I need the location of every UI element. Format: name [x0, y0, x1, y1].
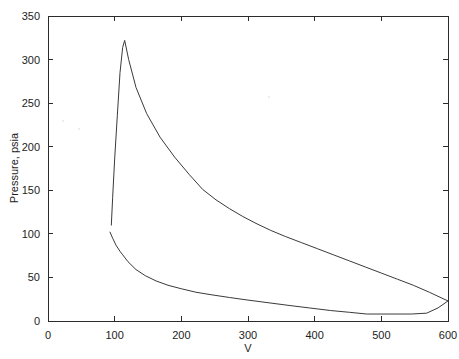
- y-tick-label: 300: [22, 54, 40, 66]
- y-tick-label: 200: [22, 141, 40, 153]
- y-tick-label: 100: [22, 228, 40, 240]
- x-tick-label: 500: [372, 329, 390, 341]
- y-axis-label: Pressure, psia: [8, 132, 20, 203]
- data-curves: [110, 40, 448, 314]
- x-axis-label: V: [244, 342, 252, 354]
- y-axis-tick-labels: 050100150200250300350: [22, 10, 40, 327]
- x-tick-label: 300: [239, 329, 257, 341]
- y-tick-label: 350: [22, 10, 40, 22]
- pv-diagram-figure: 050100150200250300350 010020030040050060…: [0, 0, 459, 359]
- scan-speck: [268, 96, 270, 98]
- y-tick-label: 0: [34, 315, 40, 327]
- y-tick-label: 50: [28, 271, 40, 283]
- curve-compression-stroke: [110, 232, 448, 314]
- scan-speck: [78, 128, 80, 130]
- x-tick-label: 200: [172, 329, 190, 341]
- curve-expansion-stroke: [111, 40, 448, 301]
- y-tick-label: 150: [22, 184, 40, 196]
- scan-speck: [62, 120, 64, 122]
- plot-canvas: 050100150200250300350 010020030040050060…: [0, 0, 459, 359]
- x-tick-label: 100: [105, 329, 123, 341]
- x-tick-label: 400: [305, 329, 323, 341]
- x-tick-label: 0: [45, 329, 51, 341]
- y-tick-label: 250: [22, 97, 40, 109]
- x-axis-tick-labels: 0100200300400500600: [45, 329, 457, 341]
- x-tick-label: 600: [439, 329, 457, 341]
